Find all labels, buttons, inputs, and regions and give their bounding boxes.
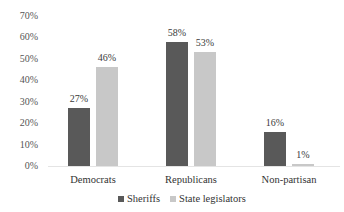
bar-sheriffs-non-partisan [264,132,286,166]
legend-item-sheriffs: Sheriffs [118,193,160,204]
data-label: 53% [190,38,220,48]
data-label: 58% [162,28,192,38]
y-tick-label: 30% [0,97,38,107]
legend-item-state-legislators: State legislators [170,193,246,204]
x-axis-baseline [48,166,340,167]
legend: Sheriffs State legislators [118,193,256,204]
legend-label: Sheriffs [127,193,160,204]
bar-state-legislators-democrats [96,67,118,166]
data-label: 1% [288,150,318,160]
legend-swatch-state-legislators [170,196,176,202]
y-tick-label: 40% [0,75,38,85]
bar-state-legislators-non-partisan [292,164,314,166]
x-tick-label: Non-partisan [244,174,334,185]
y-tick-label: 50% [0,54,38,64]
y-tick-label: 0% [0,161,38,171]
x-tick-label: Democrats [48,174,138,185]
legend-label: State legislators [179,193,246,204]
bar-state-legislators-republicans [194,52,216,166]
y-tick-label: 70% [0,11,38,21]
bar-chart: 0%10%20%30%40%50%60%70% 27%46%58%53%16%1… [0,0,344,212]
legend-swatch-sheriffs [118,196,124,202]
data-label: 46% [92,53,122,63]
bar-sheriffs-democrats [68,108,90,166]
y-tick-label: 10% [0,140,38,150]
data-label: 16% [260,118,290,128]
y-tick-label: 20% [0,118,38,128]
x-tick-label: Republicans [146,174,236,185]
data-label: 27% [64,94,94,104]
bar-sheriffs-republicans [166,42,188,166]
y-tick-label: 60% [0,32,38,42]
